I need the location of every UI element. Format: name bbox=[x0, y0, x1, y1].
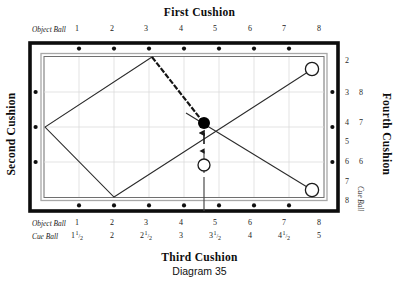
cue-ball-start bbox=[198, 159, 210, 171]
fraction-half-7: 1/2 bbox=[282, 233, 290, 239]
bottom-cue-tick-8: 5 bbox=[311, 231, 327, 240]
bottom-axis-cue-ball-label: Cue Ball bbox=[32, 232, 58, 241]
billiard-table-diagram bbox=[28, 41, 340, 213]
bottom-object-tick-5: 5 bbox=[207, 218, 223, 227]
bottom-object-tick-4: 4 bbox=[173, 218, 189, 227]
fourth-cushion-title: Fourth Cushion bbox=[381, 74, 393, 194]
top-tick-1: 1 bbox=[69, 24, 85, 33]
diamond-top-5 bbox=[217, 47, 221, 51]
diamond-top-4 bbox=[182, 47, 186, 51]
right-inner-tick-3: 3 bbox=[345, 88, 349, 97]
right-inner-tick-7: 7 bbox=[345, 177, 349, 186]
bottom-cue-tick-3: 2 1/2 bbox=[133, 231, 159, 240]
bottom-object-tick-7: 7 bbox=[276, 218, 292, 227]
diamond-bottom-6 bbox=[252, 203, 256, 207]
page-footer-bleed bbox=[0, 277, 399, 285]
diamond-top-3 bbox=[147, 47, 151, 51]
bottom-cue-tick-1: 1 1/2 bbox=[64, 231, 90, 240]
top-tick-6: 6 bbox=[242, 24, 258, 33]
diamond-bottom-7 bbox=[287, 203, 291, 207]
top-tick-2: 2 bbox=[104, 24, 120, 33]
bottom-axis-object-ball-label: Object Ball bbox=[32, 219, 66, 228]
right-inner-tick-5: 5 bbox=[345, 137, 349, 146]
object-ball bbox=[198, 117, 210, 129]
right-outer-tick-6: 6 bbox=[359, 157, 363, 166]
diamond-bottom-3 bbox=[147, 203, 151, 207]
bottom-object-tick-3: 3 bbox=[138, 218, 154, 227]
top-tick-5: 5 bbox=[207, 24, 223, 33]
diamond-right-3 bbox=[330, 160, 334, 164]
diamond-right-2 bbox=[330, 125, 334, 129]
diagram-caption: Diagram 35 bbox=[0, 265, 399, 277]
diamond-top-2 bbox=[112, 47, 116, 51]
bottom-cue-tick-2: 2 bbox=[104, 231, 120, 240]
top-axis-object-ball-label: Object Ball bbox=[32, 25, 66, 34]
bottom-cue-tick-4: 3 bbox=[173, 231, 189, 240]
bottom-cue-tick-6: 4 bbox=[242, 231, 258, 240]
first-cushion-title: First Cushion bbox=[0, 6, 399, 18]
right-outer-tick-8: 8 bbox=[359, 88, 363, 97]
right-inner-tick-2: 2 bbox=[345, 56, 349, 65]
right-inner-tick-6: 6 bbox=[345, 157, 349, 166]
cue-ball-corner-lower bbox=[305, 183, 318, 196]
right-inner-tick-8: 8 bbox=[345, 196, 349, 205]
bottom-object-tick-2: 2 bbox=[104, 218, 120, 227]
right-outer-tick-7: 7 bbox=[359, 118, 363, 127]
right-inner-tick-4: 4 bbox=[345, 118, 349, 127]
diamond-left-2 bbox=[34, 125, 38, 129]
diamond-top-6 bbox=[252, 47, 256, 51]
bottom-object-tick-6: 6 bbox=[242, 218, 258, 227]
table-svg bbox=[28, 41, 340, 213]
diamond-bottom-1 bbox=[77, 203, 81, 207]
top-tick-4: 4 bbox=[173, 24, 189, 33]
diagram-page: First Cushion Object Ball 1 2 3 4 5 6 7 … bbox=[0, 0, 399, 285]
fraction-half-1: 1/2 bbox=[75, 233, 83, 239]
top-tick-3: 3 bbox=[138, 24, 154, 33]
bottom-object-tick-8: 8 bbox=[311, 218, 327, 227]
second-cushion-title: Second Cushion bbox=[5, 74, 17, 194]
fraction-half-3: 1/2 bbox=[144, 233, 152, 239]
diamond-bottom-2 bbox=[112, 203, 116, 207]
diamond-top-1 bbox=[77, 47, 81, 51]
top-tick-8: 8 bbox=[311, 24, 327, 33]
diamond-left-3 bbox=[34, 160, 38, 164]
cue-ball-corner-upper bbox=[305, 62, 318, 75]
top-tick-7: 7 bbox=[276, 24, 292, 33]
diamond-bottom-5 bbox=[217, 203, 221, 207]
right-axis-cue-ball-label: Cue Ball bbox=[356, 186, 364, 211]
bottom-cue-tick-5: 3 1/2 bbox=[202, 231, 228, 240]
bottom-cue-tick-7: 4 1/2 bbox=[271, 231, 297, 240]
diamond-top-7 bbox=[287, 47, 291, 51]
diamond-bottom-4 bbox=[182, 203, 186, 207]
third-cushion-title: Third Cushion bbox=[0, 251, 399, 263]
fraction-half-5: 1/2 bbox=[213, 233, 221, 239]
diamond-left-1 bbox=[34, 90, 38, 94]
bottom-object-tick-1: 1 bbox=[69, 218, 85, 227]
diamond-right-1 bbox=[330, 90, 334, 94]
